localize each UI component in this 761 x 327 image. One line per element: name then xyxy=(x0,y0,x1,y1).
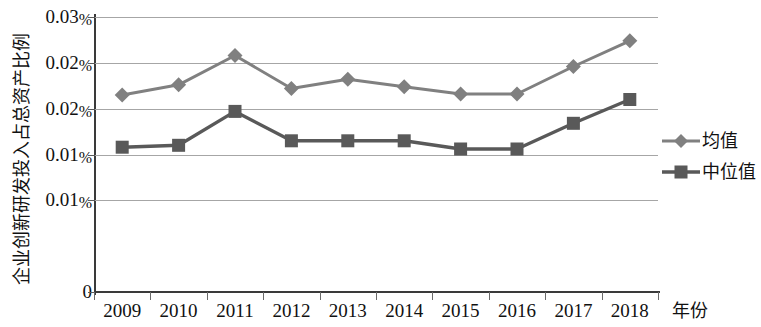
data-point-marker xyxy=(284,81,299,96)
x-axis-tick-mark xyxy=(94,292,95,300)
x-axis-tick-mark xyxy=(263,292,264,300)
y-axis-tick-label-group: 0.03%0.02%0.02%0.01%0.01%0 xyxy=(8,0,92,327)
data-point-marker xyxy=(229,105,242,118)
y-axis-tick-label: 0.02% xyxy=(8,99,92,121)
x-axis-tick-mark xyxy=(320,292,321,300)
x-axis-tick-mark xyxy=(207,292,208,300)
y-axis-tick-label: 0.01% xyxy=(8,145,92,167)
x-axis-tick-mark xyxy=(376,292,377,300)
legend-label: 均值 xyxy=(701,131,738,151)
data-point-marker xyxy=(623,93,636,106)
series-line xyxy=(122,41,630,95)
y-axis-tick-label: 0.01% xyxy=(8,190,92,212)
data-point-marker xyxy=(454,143,467,156)
x-axis-tick-mark xyxy=(150,292,151,300)
data-point-marker xyxy=(398,134,411,147)
data-point-marker xyxy=(453,87,468,102)
data-point-marker xyxy=(228,48,243,63)
x-axis-tick-mark xyxy=(658,292,659,300)
diamond-marker-icon xyxy=(661,132,701,150)
line-chart: 企业创新研发投入占总资产比例 0.03%0.02%0.02%0.01%0.01%… xyxy=(0,0,761,327)
data-series-median xyxy=(116,93,637,156)
data-point-marker xyxy=(622,33,637,48)
series-layer xyxy=(94,0,664,300)
data-series-mean xyxy=(115,33,638,102)
y-axis-tick-label: 0.03% xyxy=(8,7,92,29)
data-point-marker xyxy=(116,141,129,154)
legend-item-mean[interactable]: 均值 xyxy=(661,128,738,154)
data-point-marker xyxy=(567,117,580,130)
series-line xyxy=(122,100,630,150)
chart-legend: 均值中位值 xyxy=(661,128,761,194)
data-point-marker xyxy=(340,72,355,87)
x-axis-title: 年份 xyxy=(672,300,708,322)
x-axis-tick-mark xyxy=(432,292,433,300)
data-point-marker xyxy=(511,143,524,156)
x-axis-tick-mark xyxy=(602,292,603,300)
data-point-marker xyxy=(566,59,581,74)
x-axis-tick-label: 2018 xyxy=(595,300,665,322)
data-point-marker xyxy=(285,134,298,147)
x-axis-tick-mark xyxy=(545,292,546,300)
data-point-marker xyxy=(341,134,354,147)
y-axis-tick-label: 0 xyxy=(8,282,92,301)
data-point-marker xyxy=(172,139,185,152)
data-point-marker xyxy=(510,87,525,102)
data-point-marker xyxy=(397,79,412,94)
y-axis-tick-label: 0.02% xyxy=(8,53,92,75)
legend-label: 中位值 xyxy=(701,162,756,182)
data-point-marker xyxy=(115,87,130,102)
x-axis-tick-mark xyxy=(489,292,490,300)
legend-item-median[interactable]: 中位值 xyxy=(661,159,756,185)
data-point-marker xyxy=(171,77,186,92)
square-marker-icon xyxy=(661,163,701,181)
